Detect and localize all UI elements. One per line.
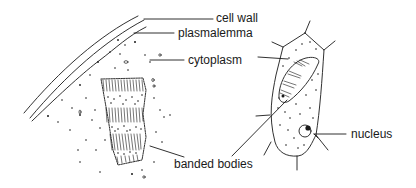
cytoplasm-leader-right	[258, 57, 288, 59]
whole-cell	[232, 21, 346, 170]
label-cell-wall: cell wall	[216, 11, 258, 25]
nucleus-shape	[299, 125, 311, 137]
cytoplasm-vesicles-left	[79, 54, 161, 178]
banded-body-left	[101, 78, 146, 165]
cell-wall-inner-line	[30, 20, 144, 118]
banded-body-right	[279, 57, 319, 102]
plasmalemma-line	[32, 27, 146, 121]
label-plasmalemma: plasmalemma	[178, 26, 253, 40]
banded-bodies-leader-left	[150, 146, 184, 157]
label-nucleus: nucleus	[351, 127, 392, 141]
label-banded-bodies: banded bodies	[174, 157, 253, 171]
cytoplasm-granules-left	[47, 39, 171, 175]
cell-edge-enlarged	[24, 16, 213, 178]
label-cytoplasm: cytoplasm	[188, 53, 242, 67]
banded-bodies-leader-right	[232, 100, 287, 156]
